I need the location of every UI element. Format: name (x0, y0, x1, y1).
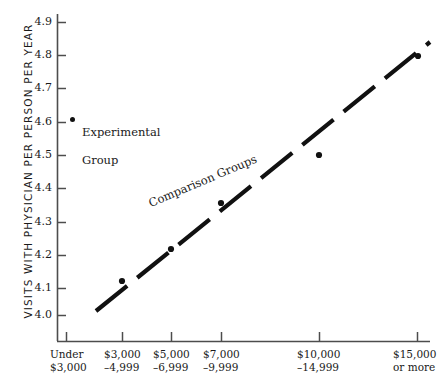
x-tick-line2: or more (393, 361, 436, 374)
x-tick-label-5000-6999: $5,000 –6,999 (153, 348, 190, 373)
x-tick-line2: –9,999 (203, 361, 240, 374)
data-point (218, 200, 224, 206)
x-axis-ticks (67, 332, 418, 341)
y-tick-label: 4.6 (22, 115, 52, 128)
x-tick-line2: –14,999 (297, 361, 340, 374)
x-tick-label-3000-4999: $3,000 –4,999 (104, 348, 141, 373)
legend-marker-dot-icon (70, 117, 75, 122)
x-tick-label-15000-or-more: $15,000 or more (393, 348, 436, 373)
data-point (415, 53, 421, 59)
y-tick-label: 4.7 (22, 81, 52, 94)
legend-label-line1: Experimental (82, 125, 161, 139)
x-tick-line1: $7,000 (203, 348, 240, 361)
x-tick-line1: $5,000 (153, 348, 190, 361)
x-tick-line2: –6,999 (153, 361, 190, 374)
x-tick-label-7000-9999: $7,000 –9,999 (203, 348, 240, 373)
plot-area (0, 0, 444, 384)
y-axis-ticks (57, 23, 66, 316)
x-tick-label-under-3000: Under $3,000 (50, 348, 87, 373)
y-tick-label: 4.1 (22, 281, 52, 294)
x-tick-line1: Under (50, 348, 87, 361)
y-tick-label: 4.5 (22, 148, 52, 161)
y-tick-label: 4.3 (22, 215, 52, 228)
legend: Experimental Group (70, 111, 161, 181)
x-tick-line1: $3,000 (104, 348, 141, 361)
x-tick-line1: $15,000 (393, 348, 436, 361)
legend-label-line2: Group (82, 153, 161, 167)
chart-figure: VISITS WITH PHYSICIAN PER PERSON PER YEA… (0, 0, 444, 384)
y-tick-label: 4.8 (22, 48, 52, 61)
y-tick-label: 4.9 (22, 15, 52, 28)
data-point (168, 246, 174, 252)
x-tick-line2: –4,999 (104, 361, 141, 374)
y-tick-label: 4.4 (22, 181, 52, 194)
legend-label-experimental-group: Experimental Group (82, 111, 161, 181)
data-point (119, 278, 125, 284)
y-tick-label: 4.2 (22, 248, 52, 261)
x-tick-line1: $10,000 (297, 348, 340, 361)
x-tick-label-10000-14999: $10,000 –14,999 (297, 348, 340, 373)
x-tick-line2: $3,000 (50, 361, 87, 374)
data-point (316, 152, 322, 158)
y-tick-label: 4.0 (22, 308, 52, 321)
